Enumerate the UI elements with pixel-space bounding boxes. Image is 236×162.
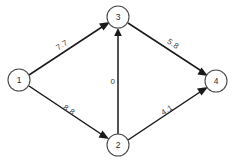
edge-2-to-3-arrowhead (114, 28, 122, 36)
edge-3-to-4 (128, 23, 208, 76)
node-2[interactable]: 2 (107, 134, 129, 156)
node-1-label: 1 (17, 75, 22, 85)
node-1[interactable]: 1 (8, 69, 30, 91)
edge-label-2-3: 0 (111, 77, 116, 86)
graph-canvas: 7.7 8.8 0 5.8 4.1 1 2 3 4 (0, 0, 236, 162)
edge-1-to-3 (29, 22, 110, 75)
edge-1-to-3-line (29, 25, 105, 75)
node-2-label: 2 (116, 140, 121, 150)
graph-diagram: 7.7 8.8 0 5.8 4.1 1 2 3 4 (0, 0, 236, 162)
node-4-label: 4 (214, 76, 219, 86)
node-4[interactable]: 4 (205, 70, 227, 92)
edges-group (29, 22, 208, 140)
edge-1-to-2-arrowhead (99, 131, 110, 140)
edge-label-2-4: 4.1 (159, 103, 174, 117)
edge-label-1-2: 8.8 (61, 103, 76, 117)
node-3[interactable]: 3 (107, 6, 129, 28)
edge-2-to-4-arrowhead (197, 87, 208, 96)
node-3-label: 3 (116, 12, 121, 22)
edge-3-to-4-line (128, 23, 203, 72)
